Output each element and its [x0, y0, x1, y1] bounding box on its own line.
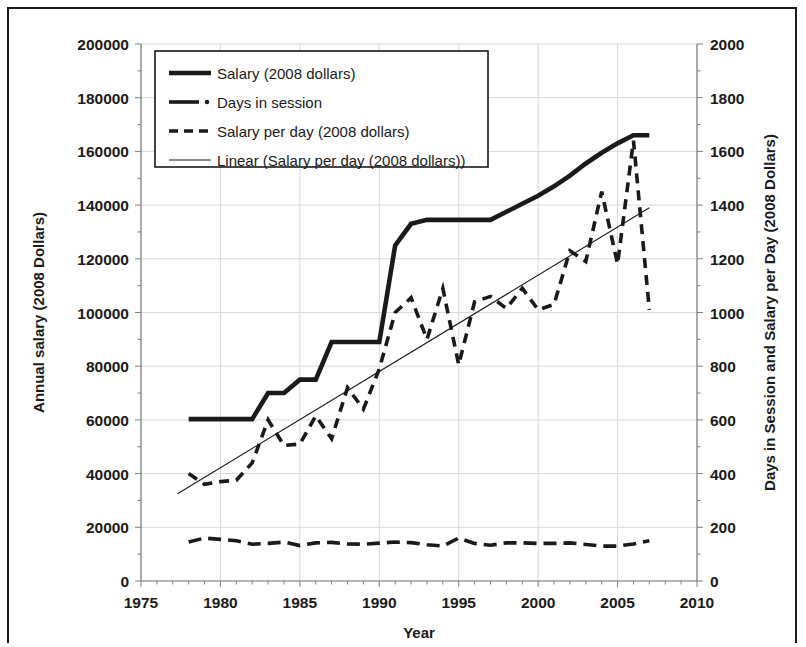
x-tick-label: 2000 — [521, 594, 555, 611]
y-tick-label-right: 1200 — [710, 251, 744, 268]
salary-chart: 0200004000060000800001000001200001400001… — [0, 0, 806, 647]
x-tick-label: 1980 — [203, 594, 237, 611]
y-tick-label-right: 400 — [710, 466, 736, 483]
y-tick-label-right: 800 — [710, 358, 736, 375]
y-tick-label-right: 2000 — [710, 36, 744, 53]
y-tick-label-right: 1000 — [710, 305, 744, 322]
x-tick-label: 1995 — [441, 594, 476, 611]
y-tick-label-right: 1800 — [710, 90, 744, 107]
y-tick-label-left: 0 — [120, 573, 129, 590]
y-tick-label-right: 0 — [710, 573, 719, 590]
y-tick-label-left: 120000 — [77, 251, 129, 268]
y-tick-label-left: 200000 — [77, 36, 129, 53]
y-axis-title-left: Annual salary (2008 Dollars) — [30, 212, 47, 413]
legend-label: Linear (Salary per day (2008 dollars)) — [217, 152, 465, 169]
x-tick-label: 1985 — [283, 594, 318, 611]
y-tick-label-left: 100000 — [77, 305, 129, 322]
chart-figure: 0200004000060000800001000001200001400001… — [0, 0, 806, 647]
series-line — [189, 135, 650, 419]
legend-label: Salary (2008 dollars) — [217, 65, 355, 82]
y-tick-label-left: 180000 — [77, 90, 129, 107]
y-tick-label-right: 1600 — [710, 143, 744, 160]
series-trendline — [178, 208, 650, 494]
legend-label: Salary per day (2008 dollars) — [217, 123, 410, 140]
y-tick-label-left: 80000 — [86, 358, 129, 375]
y-tick-label-left: 60000 — [86, 412, 129, 429]
x-tick-label: 2005 — [600, 594, 635, 611]
y-tick-label-right: 200 — [710, 519, 736, 536]
series-line — [189, 538, 650, 546]
x-tick-label: 1990 — [362, 594, 396, 611]
y-tick-label-left: 20000 — [86, 519, 129, 536]
x-tick-label: 1975 — [124, 594, 159, 611]
y-tick-label-left: 160000 — [77, 143, 129, 160]
y-tick-label-left: 40000 — [86, 466, 129, 483]
legend-label: Days in session — [217, 94, 322, 111]
y-tick-label-left: 140000 — [77, 197, 129, 214]
y-tick-label-right: 1400 — [710, 197, 744, 214]
x-tick-label: 2010 — [680, 594, 714, 611]
y-tick-label-right: 600 — [710, 412, 736, 429]
x-axis-title: Year — [403, 624, 435, 641]
y-axis-title-right: Days in Session and Salary per Day (2008… — [761, 134, 778, 491]
legend-swatch-dot — [205, 100, 209, 104]
